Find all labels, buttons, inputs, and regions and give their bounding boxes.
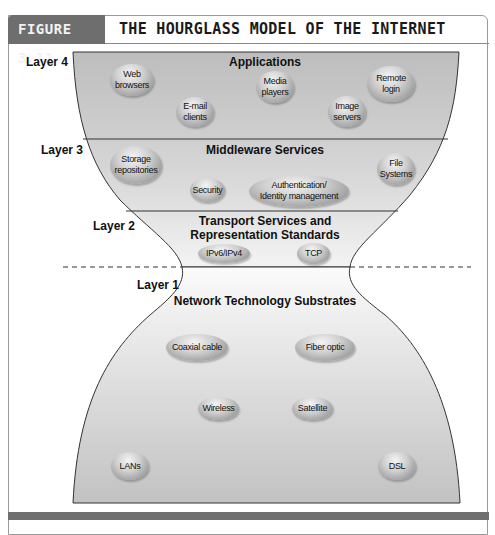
layer-2-label: Layer 2 [93, 219, 135, 233]
layer-4-label: Layer 4 [26, 55, 68, 69]
bubble-storage-repositories: Storagerepositories [110, 146, 162, 184]
bubble-security: Security [190, 178, 225, 202]
layer-3-label: Layer 3 [41, 143, 83, 157]
bubble-media-players: Mediaplayers [256, 71, 294, 103]
bubble-ipv6-ipv4: IPv6/IPv4 [198, 244, 250, 263]
bubble-fiber-optic: Fiber optic [295, 334, 355, 361]
middleware-title: Middleware Services [170, 143, 360, 157]
bubble-web-browsers: Webbrowsers [110, 64, 154, 96]
bubble-lans: LANs [111, 452, 149, 480]
bubble-remote-login: Remotelogin [367, 66, 415, 102]
bubble-satellite: Satellite [292, 397, 333, 420]
bubble-image-servers: Imageservers [328, 96, 366, 127]
transport-title-line1: Transport Services and [160, 214, 370, 228]
network-substrates-title: Network Technology Substrates [160, 294, 370, 308]
applications-title: Applications [190, 55, 340, 69]
transport-title: Transport Services and Representation St… [160, 214, 370, 242]
bubble-email-clients: E-mailclients [176, 97, 214, 127]
bubble-authentication-identity: Authentication/Identity management [249, 175, 349, 207]
transport-title-line2: Representation Standards [160, 228, 370, 242]
bubble-dsl: DSL [378, 452, 416, 480]
bubble-file-systems: FileSystems [377, 153, 415, 185]
bubble-tcp: TCP [297, 243, 330, 264]
bubble-coaxial-cable: Coaxial cable [166, 334, 228, 361]
bubble-wireless: Wireless [198, 397, 239, 420]
bottom-band [8, 512, 489, 520]
layer-1-label: Layer 1 [137, 278, 179, 292]
